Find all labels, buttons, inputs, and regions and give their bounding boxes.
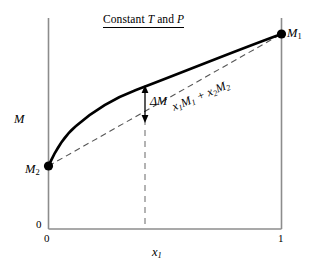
x-axis-label: x1 <box>152 246 162 260</box>
point-marker-m1 <box>277 29 286 38</box>
title-prefix: Constant <box>103 13 148 25</box>
title-symbol-p: P <box>177 13 184 25</box>
y-axis-label: M <box>14 113 24 126</box>
y-tick-label-0: 0 <box>36 219 42 230</box>
point-label-m1-subscript: 1 <box>297 31 301 41</box>
point-label-m1: M1 <box>287 27 302 41</box>
point-label-m1-base: M <box>287 26 297 40</box>
delta-m-label: ΔM <box>150 95 167 107</box>
point-label-m2-base: M <box>25 162 35 176</box>
x-tick-label-0: 0 <box>44 233 50 244</box>
plot-canvas <box>0 0 317 271</box>
figure-container: Constant T and P M x1 0 0 1 M1 M2 ΔM x1M… <box>0 0 317 271</box>
delta-m-arrow <box>142 85 149 123</box>
point-label-m2-subscript: 2 <box>35 167 39 177</box>
title-conjunction: and <box>154 13 177 25</box>
x-axis-label-subscript: 1 <box>158 250 162 260</box>
point-marker-m2 <box>44 161 53 170</box>
point-label-m2: M2 <box>25 163 40 177</box>
chart-title: Constant T and P <box>103 14 184 28</box>
x-tick-label-1: 1 <box>278 233 284 244</box>
